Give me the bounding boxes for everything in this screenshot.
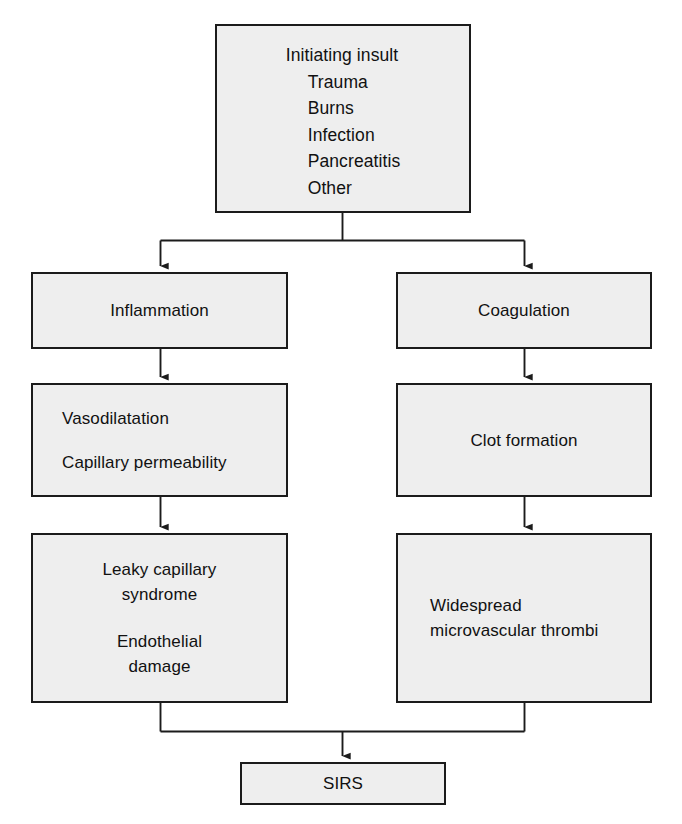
node-vasodilatation: Vasodilatation Capillary permeability bbox=[31, 383, 288, 497]
coagulation-label: Coagulation bbox=[478, 298, 570, 323]
initiating-insult-text-block: Initiating insult Trauma Burns Infection… bbox=[286, 42, 401, 201]
node-initiating-insult: Initiating insult Trauma Burns Infection… bbox=[215, 24, 471, 213]
endothelial-damage-line-2: damage bbox=[128, 654, 190, 679]
widespread-thrombi-line-2: microvascular thrombi bbox=[430, 618, 598, 643]
vasodilatation-label: Vasodilatation bbox=[62, 406, 169, 431]
leaky-capillary-line-2: syndrome bbox=[122, 582, 197, 607]
initiating-insult-item-infection: Infection bbox=[286, 122, 375, 149]
capillary-permeability-label: Capillary permeability bbox=[62, 450, 227, 475]
initiating-insult-item-trauma: Trauma bbox=[286, 69, 368, 96]
initiating-insult-item-pancreatitis: Pancreatitis bbox=[286, 148, 401, 175]
initiating-insult-item-burns: Burns bbox=[286, 95, 354, 122]
node-clot-formation: Clot formation bbox=[396, 383, 652, 497]
endothelial-damage-line-1: Endothelial bbox=[117, 629, 202, 654]
initiating-insult-item-other: Other bbox=[286, 175, 352, 202]
node-sirs: SIRS bbox=[240, 762, 446, 805]
inflammation-label: Inflammation bbox=[110, 298, 209, 323]
leaky-capillary-line-1: Leaky capillary bbox=[103, 557, 217, 582]
clot-formation-label: Clot formation bbox=[470, 428, 577, 453]
node-leaky-capillary-syndrome: Leaky capillary syndrome Endothelial dam… bbox=[31, 533, 288, 703]
widespread-thrombi-line-1: Widespread bbox=[430, 593, 522, 618]
flowchart-diagram: Initiating insult Trauma Burns Infection… bbox=[0, 0, 682, 824]
sirs-label: SIRS bbox=[323, 771, 363, 796]
node-coagulation: Coagulation bbox=[396, 272, 652, 349]
node-inflammation: Inflammation bbox=[31, 272, 288, 349]
initiating-insult-heading: Initiating insult bbox=[286, 42, 399, 69]
node-widespread-microvascular-thrombi: Widespread microvascular thrombi bbox=[396, 533, 652, 703]
